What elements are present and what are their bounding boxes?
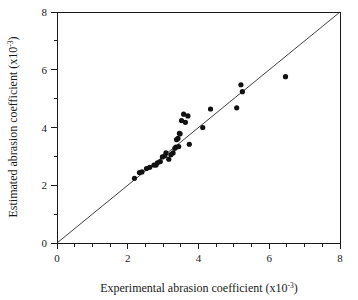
data-points <box>132 74 288 181</box>
identity-line <box>57 12 340 243</box>
y-tick-label: 4 <box>42 122 48 134</box>
x-tick-label: 6 <box>267 252 273 264</box>
data-point <box>200 125 205 130</box>
data-point <box>166 157 171 162</box>
x-tick-label: 4 <box>196 252 202 264</box>
data-point <box>234 105 239 110</box>
data-point <box>132 176 137 181</box>
data-point <box>178 131 183 136</box>
y-tick-label: 2 <box>42 179 48 191</box>
x-tick-label: 0 <box>54 252 60 264</box>
data-point <box>183 120 188 125</box>
data-point <box>176 144 181 149</box>
identity-reference-line <box>57 12 340 243</box>
plot-canvas: 0246802468 Experimental abrasion coeffic… <box>0 0 358 300</box>
x-axis-title: Experimental abrasion coefficient (x10-3… <box>100 281 298 296</box>
data-point <box>208 106 213 111</box>
data-point <box>240 89 245 94</box>
x-tick-label: 8 <box>337 252 343 264</box>
data-point <box>238 82 243 87</box>
y-axis-title: Estimated abrasion coefficient (x10-3) <box>6 37 21 218</box>
scatter-plot-figure: 0246802468 Experimental abrasion coeffic… <box>0 0 358 300</box>
data-point <box>283 74 288 79</box>
y-tick-label: 6 <box>42 64 48 76</box>
axis-tick-labels: 0246802468 <box>42 6 344 264</box>
data-point <box>170 150 175 155</box>
data-point <box>185 113 190 118</box>
x-tick-label: 2 <box>125 252 131 264</box>
data-point <box>158 159 163 164</box>
data-point <box>139 169 144 174</box>
data-point <box>187 142 192 147</box>
data-point <box>163 150 168 155</box>
data-point <box>175 136 180 141</box>
y-tick-label: 8 <box>42 6 48 18</box>
y-tick-label: 0 <box>42 237 48 249</box>
